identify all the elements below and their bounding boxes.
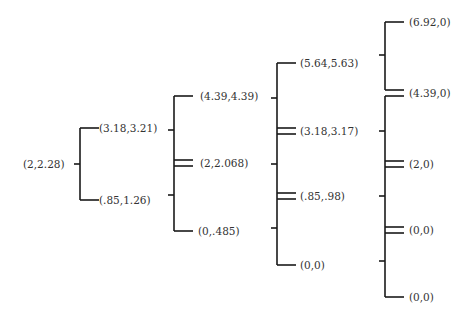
node-label: (0,0) (409, 291, 434, 303)
node-label: (4.39,4.39) (200, 90, 258, 102)
node-label: (5.64,5.63) (300, 57, 358, 69)
node-label: (0,.485) (198, 225, 240, 237)
node-label: (2,2.068) (200, 157, 248, 169)
node-label: (.85,.98) (300, 190, 345, 202)
node-label: (.85,1.26) (99, 194, 151, 206)
node-label: (2,0) (409, 158, 434, 170)
node-label: (0,0) (409, 224, 434, 236)
node-label: (4.39,0) (409, 87, 451, 99)
node-label: (3.18,3.17) (300, 125, 358, 137)
node-label: (6.92,0) (409, 16, 451, 28)
node-label: (2,2.28) (23, 158, 65, 170)
node-label: (0,0) (300, 259, 325, 271)
node-label: (3.18,3.21) (99, 122, 157, 134)
